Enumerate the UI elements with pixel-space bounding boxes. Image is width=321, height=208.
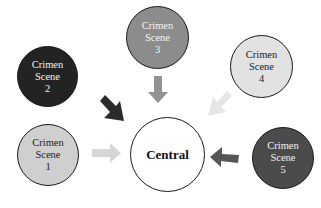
- arrow-scene-2-to-central: [100, 95, 124, 121]
- scene-2-number: 2: [45, 83, 50, 95]
- scene-3-number: 3: [155, 44, 160, 56]
- crime-scene-4-node: Crimen Scene 4: [230, 35, 293, 98]
- crime-scene-2-node: Crimen Scene 2: [17, 46, 78, 107]
- arrow-scene-1-to-central: [92, 143, 121, 163]
- crime-scene-3-node: Crimen Scene 3: [126, 6, 189, 69]
- scene-4-line2: Scene: [249, 61, 274, 73]
- arrow-scene-3-to-central: [148, 76, 168, 103]
- scene-3-line1: Crimen: [142, 20, 174, 32]
- central-node: Central: [130, 117, 205, 192]
- scene-5-number: 5: [280, 164, 285, 176]
- crime-scene-5-node: Crimen Scene 5: [252, 127, 314, 189]
- scene-2-line1: Crimen: [32, 59, 64, 71]
- scene-1-line1: Crimen: [32, 137, 64, 149]
- scene-4-line1: Crimen: [246, 49, 278, 61]
- arrow-scene-4-to-central: [208, 91, 232, 116]
- scene-4-number: 4: [259, 73, 264, 85]
- scene-3-line2: Scene: [145, 32, 170, 44]
- central-label: Central: [146, 149, 189, 161]
- scene-1-line2: Scene: [35, 149, 60, 161]
- scene-1-number: 1: [45, 161, 50, 173]
- crime-scene-1-node: Crimen Scene 1: [17, 124, 79, 186]
- crime-scene-diagram: Central Crimen Scene 1 Crimen Scene 2 Cr…: [0, 0, 321, 208]
- scene-5-line2: Scene: [270, 152, 295, 164]
- arrow-scene-5-to-central: [210, 147, 239, 167]
- scene-2-line2: Scene: [35, 71, 60, 83]
- scene-5-line1: Crimen: [267, 140, 299, 152]
